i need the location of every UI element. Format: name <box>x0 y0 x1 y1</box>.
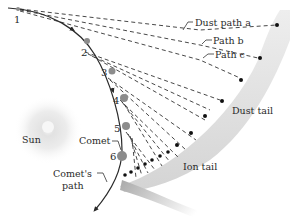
position-label-5: 5 <box>114 123 120 134</box>
position-marker-4 <box>120 94 128 102</box>
dust-tail-label: Dust tail <box>232 105 273 116</box>
comet-path-label-line1: Comet's <box>53 168 92 179</box>
position-label-2: 2 <box>81 47 87 58</box>
position-marker-5 <box>122 122 130 130</box>
position-label-1: 1 <box>14 14 20 25</box>
position-label-6: 6 <box>110 151 116 162</box>
ion-tail-band <box>120 180 210 222</box>
position-marker-2 <box>84 38 90 44</box>
position-label-3: 3 <box>101 67 107 78</box>
dust-path-a-label: Dust path a <box>195 17 251 28</box>
position-marker-6 <box>117 151 127 161</box>
comet-diagram: 1 2 3 4 5 6 Dust path a Path b Path c Du… <box>0 0 290 222</box>
sun-label: Sun <box>22 134 41 145</box>
comet-label: Comet <box>79 135 111 146</box>
sun <box>14 96 82 164</box>
position-label-4: 4 <box>113 95 119 106</box>
path-c-label: Path c <box>215 49 245 60</box>
position-marker-3 <box>109 68 116 75</box>
path-b-label: Path b <box>213 35 244 46</box>
comet-path-label-line2: path <box>62 180 84 191</box>
position-marker-1 <box>16 7 20 11</box>
ion-tail-label: Ion tail <box>183 161 217 172</box>
